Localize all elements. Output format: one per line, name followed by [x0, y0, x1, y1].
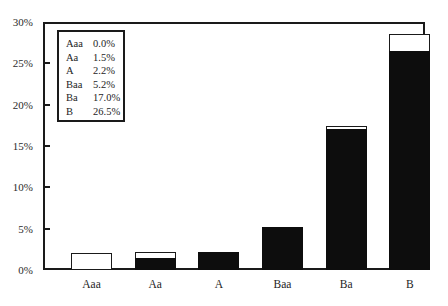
y-tick-label-0: 0%: [18, 264, 33, 276]
bar-group-baa: [262, 22, 303, 270]
legend-row: Baa 5.2%: [59, 78, 123, 92]
legend-row: B 26.5%: [59, 105, 123, 119]
bar-fill-ba: [326, 129, 367, 270]
y-tick-label-1: 5%: [18, 223, 33, 235]
legend-row: Aaa 0.0%: [59, 37, 123, 51]
legend-rating-label: Baa: [66, 78, 93, 92]
y-tick-label-4: 20%: [13, 99, 33, 111]
legend-value-label: 5.2%: [93, 78, 123, 92]
legend-rating-label: A: [66, 64, 93, 78]
legend-rating-label: Aa: [66, 51, 93, 65]
y-tick-label-6: 30%: [13, 16, 33, 28]
bar-group-a: [198, 22, 239, 270]
legend-value-label: 2.2%: [93, 64, 123, 78]
y-tick-label-2: 10%: [13, 181, 33, 193]
x-tick-label-aaa: Aaa: [82, 278, 101, 290]
bar-outline-aaa: [71, 253, 112, 270]
x-tick-label-ba: Ba: [340, 278, 353, 290]
bar-fill-baa: [262, 227, 303, 270]
legend-value-label: 1.5%: [93, 51, 123, 65]
bar-group-aa: [135, 22, 176, 270]
x-tick-label-b: B: [406, 278, 414, 290]
legend-rating-label: B: [66, 105, 93, 119]
legend-value-label: 17.0%: [93, 91, 123, 105]
y-tick-label-3: 15%: [13, 140, 33, 152]
bar-group-ba: [326, 22, 367, 270]
legend-rating-label: Ba: [66, 91, 93, 105]
legend-value-label: 0.0%: [93, 37, 123, 51]
legend-row: Ba 17.0%: [59, 91, 123, 105]
legend: Aaa 0.0% Aa 1.5% A 2.2% Baa 5.2% Ba 17.0…: [57, 30, 125, 122]
bar-group-b: [389, 22, 430, 270]
bar-fill-a: [198, 252, 239, 270]
x-tick-label-a: A: [215, 278, 223, 290]
x-axis: Aaa Aa A Baa Ba B: [43, 272, 425, 302]
x-tick-label-baa: Baa: [274, 278, 292, 290]
bar-fill-b: [389, 51, 430, 270]
legend-value-label: 26.5%: [93, 105, 123, 119]
x-tick-label-aa: Aa: [148, 278, 161, 290]
bar-chart: 0% 5% 10% 15% 20% 25% 30%: [0, 0, 448, 306]
legend-row: A 2.2%: [59, 64, 123, 78]
legend-rating-label: Aaa: [66, 37, 93, 51]
y-axis: 0% 5% 10% 15% 20% 25% 30%: [0, 0, 43, 306]
y-tick-label-5: 25%: [13, 57, 33, 69]
legend-row: Aa 1.5%: [59, 51, 123, 65]
bar-fill-aa: [135, 258, 176, 270]
